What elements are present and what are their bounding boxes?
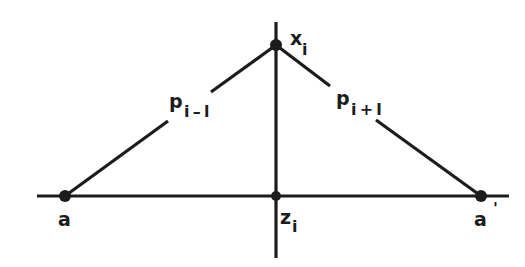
- diagram-svg: x i a z i a ' p i – l p i + l: [0, 0, 525, 267]
- point-z-i: [271, 191, 281, 201]
- label-z-subscript: i: [292, 217, 297, 236]
- label-a-prime: a: [474, 208, 487, 230]
- label-a-prime-mark: ': [493, 199, 498, 218]
- label-z: z: [280, 206, 291, 228]
- diagram-canvas: x i a z i a ' p i – l p i + l: [0, 0, 525, 267]
- point-a: [59, 190, 71, 202]
- label-p-left-subscript: i – l: [184, 102, 209, 121]
- label-x-subscript: i: [302, 40, 307, 59]
- edge-p-i-minus-1-upper: [211, 45, 276, 92]
- point-a-prime: [475, 190, 487, 202]
- label-a: a: [58, 208, 71, 230]
- label-p-right: p: [336, 87, 350, 109]
- label-x: x: [290, 27, 302, 49]
- point-x-i: [270, 39, 282, 51]
- edge-p-i-minus-1-lower: [65, 121, 168, 196]
- edge-p-i-plus-1-lower: [376, 120, 481, 196]
- label-p-left: p: [169, 90, 183, 112]
- label-p-right-subscript: i + l: [351, 100, 382, 119]
